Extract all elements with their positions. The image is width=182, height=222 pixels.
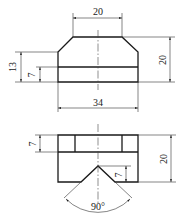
front-bottom-width-label: 34: [93, 97, 103, 108]
top-notch-depth-label: 7: [113, 173, 124, 178]
top-total-height-label: 20: [158, 154, 169, 164]
dim-front-band-height: 7: [26, 67, 58, 82]
technical-drawing: 20 20 13 7 34: [0, 0, 182, 222]
notch-extension-left: [64, 182, 81, 198]
front-view: 20 20 13 7 34: [7, 6, 175, 112]
notch-extension-right: [115, 182, 132, 198]
front-total-height-label: 20: [157, 55, 168, 65]
top-band-height-label: 7: [27, 142, 38, 147]
dim-top-notch-depth: 7: [98, 166, 131, 182]
dim-top-band-height: 7: [27, 135, 58, 152]
front-left-height-label: 13: [7, 62, 18, 72]
dim-top-total-height: 20: [138, 135, 176, 182]
front-top-width-label: 20: [93, 6, 103, 17]
front-band-height-label: 7: [26, 73, 37, 78]
dim-top-notch-angle: 90°: [66, 199, 130, 212]
top-view: 7 20 7 90°: [27, 124, 176, 212]
dim-front-top-width: 20: [73, 6, 122, 37]
top-notch-angle-label: 90°: [91, 201, 105, 212]
